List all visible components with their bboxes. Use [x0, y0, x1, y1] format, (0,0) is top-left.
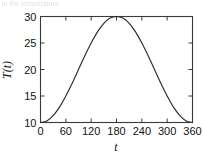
x-axis-tick-labels: 060120180240300360	[37, 125, 201, 137]
y-axis-tick-marks	[41, 17, 45, 123]
x-tick-label: 0	[37, 125, 43, 137]
x-tick-label: 240	[133, 125, 151, 137]
line-chart: 060120180240300360 1015202530 t T(t)	[0, 0, 203, 154]
y-tick-label: 20	[24, 64, 36, 76]
x-tick-label: 120	[82, 125, 100, 137]
x-axis-title: t	[114, 140, 118, 154]
figure-root: in the temperature 060120180240300360 10…	[0, 0, 203, 154]
y-axis-tick-labels: 1015202530	[24, 11, 36, 129]
y-tick-label: 15	[24, 90, 36, 102]
data-series-curve	[41, 17, 193, 123]
y-tick-label: 25	[24, 37, 36, 49]
x-tick-label: 360	[183, 125, 201, 137]
x-tick-label: 180	[107, 125, 125, 137]
x-axis-tick-marks-top	[41, 17, 193, 21]
x-tick-label: 60	[60, 125, 72, 137]
x-axis-tick-marks	[41, 119, 193, 123]
y-tick-label: 30	[24, 11, 36, 23]
y-axis-title: T(t)	[0, 61, 14, 79]
x-tick-label: 300	[158, 125, 176, 137]
y-tick-label: 10	[24, 117, 36, 129]
y-axis-tick-marks-right	[189, 17, 193, 123]
plot-frame	[41, 17, 193, 123]
